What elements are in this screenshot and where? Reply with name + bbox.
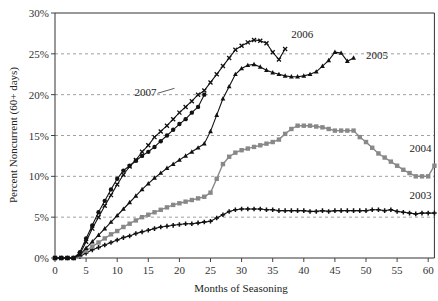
data-point-marker [171,223,176,228]
data-point-marker [214,112,219,116]
data-point-marker [184,105,188,109]
series-2004 [53,124,437,261]
data-point-marker [308,124,312,128]
data-point-marker [370,208,375,213]
data-point-marker [90,223,94,227]
data-point-marker [134,159,138,163]
data-point-marker [140,215,144,219]
data-point-marker [432,164,436,168]
data-point-marker [134,231,139,236]
data-point-marker [146,143,150,147]
data-point-marker [364,140,368,144]
y-tick-label: 20% [29,89,49,101]
data-point-marker [215,72,219,76]
data-point-marker [283,132,287,136]
data-point-marker [177,222,182,227]
y-tick-label: 10% [29,170,49,182]
data-point-marker [252,145,256,149]
data-point-marker [190,198,194,202]
data-point-marker [289,127,293,131]
data-point-marker [221,96,226,100]
data-point-marker [221,212,226,217]
data-point-marker [109,232,113,236]
data-point-marker [295,208,300,213]
data-point-marker [202,92,206,96]
data-point-marker [109,187,113,191]
data-point-marker [420,211,425,216]
data-point-marker [102,243,107,248]
data-point-marker [159,139,163,143]
data-point-marker [395,164,399,168]
series-label-2005: 2005 [366,49,389,61]
data-point-marker [146,228,151,233]
data-point-marker [177,201,181,205]
data-point-marker [171,128,175,132]
x-axis-title: Months of Seasoning [194,282,288,294]
data-point-marker [183,117,187,121]
data-point-marker [376,208,381,213]
data-point-marker [240,44,244,48]
data-point-marker [308,209,313,214]
data-point-marker [196,196,200,200]
x-tick-label: 25 [205,264,217,276]
data-point-marker [177,157,182,161]
x-tick-label: 40 [298,264,310,276]
data-point-marker [171,161,176,165]
data-point-marker [382,208,387,213]
data-point-marker [277,208,282,213]
data-point-marker [426,211,431,216]
data-point-marker [78,250,82,254]
data-point-marker [414,174,418,178]
x-tick-label: 0 [52,264,58,276]
data-point-marker [233,48,237,52]
data-point-marker [389,159,393,163]
y-tick-label: 5% [34,211,49,223]
data-point-marker [121,168,125,172]
data-point-marker [202,89,206,93]
data-point-marker [84,236,88,240]
data-point-marker [115,238,120,243]
data-point-marker [53,256,57,260]
data-point-marker [171,203,175,207]
x-tick-label: 15 [143,264,155,276]
data-point-marker [277,58,281,62]
series-label-2003: 2003 [410,189,433,201]
data-point-marker [115,183,119,187]
data-point-marker [407,211,412,216]
x-tick-label: 10 [112,264,124,276]
data-point-marker [158,225,163,230]
data-point-marker [183,199,187,203]
y-tick-label: 0% [34,252,49,264]
data-point-marker [121,235,126,240]
data-point-marker [364,208,369,213]
data-point-marker [258,207,263,212]
data-point-marker [209,80,213,84]
data-point-marker [314,124,318,128]
series-2005 [53,50,356,260]
x-tick-label: 30 [236,264,248,276]
x-tick-label: 35 [267,264,279,276]
data-point-marker [221,64,225,68]
data-point-marker [389,208,394,213]
data-point-marker [196,105,200,109]
y-axis-title: Percent Noncurrent (60+ days) [7,67,20,203]
data-point-marker [326,127,330,131]
data-point-marker [189,149,194,153]
series-line [55,52,354,258]
series-label-2004: 2004 [410,142,433,154]
data-point-marker [71,256,75,260]
data-point-marker [227,155,231,159]
data-point-marker [420,174,424,178]
data-point-marker [165,124,169,128]
data-point-marker [252,207,257,212]
data-point-marker [227,84,232,88]
data-point-marker [127,164,131,168]
data-point-marker [270,208,275,213]
data-point-marker [165,205,169,209]
data-point-marker [159,208,163,212]
data-point-marker [215,177,219,181]
data-point-marker [196,221,201,226]
data-point-marker [202,141,207,145]
data-point-marker [103,199,107,203]
data-point-marker [358,135,362,139]
